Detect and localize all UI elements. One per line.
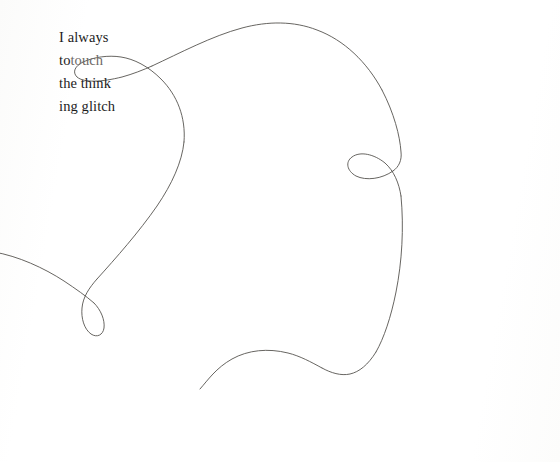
poem-word-to: to: [59, 52, 70, 68]
poem-line-1: I always: [59, 26, 199, 49]
line-segment-left-tail: [0, 252, 94, 303]
scanned-page: I always totouch the think ing glitch: [0, 0, 560, 462]
line-segment-bottom-swing: [322, 352, 376, 375]
line-segment-right-fall: [376, 196, 402, 352]
line-segment-left-rise: [97, 142, 184, 279]
poem-line-3: the think: [59, 72, 199, 95]
poem-line-2: totouch: [59, 49, 199, 72]
line-segment-bottom-s-curve: [200, 350, 322, 389]
poem-word-touch: touch: [70, 52, 103, 68]
line-loop-right: [348, 154, 401, 196]
line-loop-bottom-left: [82, 279, 104, 336]
poem-text-block: I always totouch the think ing glitch: [59, 26, 199, 118]
line-segment-right-descent: [382, 90, 401, 171]
poem-line-4: ing glitch: [59, 95, 199, 118]
